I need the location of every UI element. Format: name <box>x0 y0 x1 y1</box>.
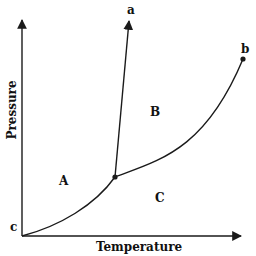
critical-point <box>240 56 245 61</box>
vaporization-curve <box>115 59 243 177</box>
point-label-b: b <box>241 42 249 56</box>
sublimation-curve <box>22 177 115 236</box>
region-label-a: A <box>58 174 69 188</box>
point-label-c: c <box>10 220 17 234</box>
y-axis-label: Pressure <box>5 80 19 140</box>
phase-diagram: a b c A B C Temperature Pressure <box>0 0 256 256</box>
diagram-svg: a b c A B C Temperature Pressure <box>0 0 256 256</box>
x-axis-label: Temperature <box>96 240 183 254</box>
point-label-a: a <box>127 3 135 17</box>
fusion-line <box>115 21 129 177</box>
region-label-b: B <box>150 105 160 119</box>
region-label-c: C <box>155 191 165 205</box>
triple-point <box>112 174 117 179</box>
